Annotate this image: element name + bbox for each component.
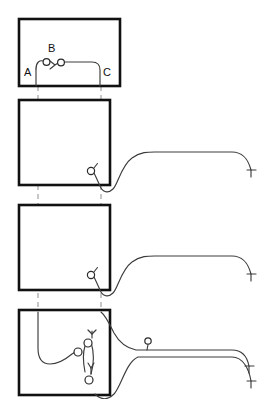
panel-1-node-b[interactable]	[58, 59, 65, 66]
panel-2-fork-terminal	[247, 170, 256, 177]
panel-4-exit-node-upper-stem	[147, 345, 148, 351]
panel-4-node-lower[interactable]	[85, 376, 93, 384]
panel-4-node-upper[interactable]	[84, 339, 92, 347]
panel-3-frame	[19, 205, 110, 290]
panel-4[interactable]	[19, 310, 256, 399]
panel-3-fork-terminal	[247, 274, 256, 281]
panel-4-node-middle[interactable]	[74, 348, 82, 356]
panel-4-exit-trace-upper	[101, 312, 249, 366]
panel-1-node-a[interactable]	[43, 59, 50, 66]
panel-1[interactable]: A B C	[19, 19, 120, 86]
panel-4-fork-terminal-lower	[247, 381, 256, 388]
panel-3[interactable]	[19, 205, 256, 296]
label-c: C	[103, 66, 111, 78]
figure-canvas: A B C	[0, 0, 275, 419]
label-b: B	[48, 42, 55, 54]
panel-2-exit-trace	[94, 152, 251, 192]
figure-root: A B C	[0, 0, 275, 419]
panel-4-exit-node-upper[interactable]	[145, 338, 151, 344]
panel-2-frame	[19, 100, 110, 185]
panel-4-frame	[19, 310, 110, 395]
panel-3-exit-trace	[94, 256, 251, 296]
panel-2[interactable]	[19, 100, 256, 192]
label-a: A	[24, 66, 32, 78]
panel-4-exit-trace-lower	[95, 357, 251, 399]
